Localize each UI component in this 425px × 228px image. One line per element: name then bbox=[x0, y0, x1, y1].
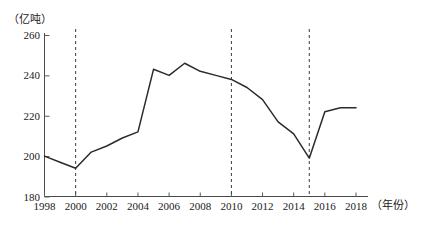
y-tick-label: 260 bbox=[14, 30, 40, 41]
y-tick-label: 240 bbox=[14, 70, 40, 81]
x-tick-label: 2016 bbox=[314, 201, 336, 212]
y-tick-label: 200 bbox=[14, 151, 40, 162]
y-tick-marks bbox=[45, 36, 50, 198]
x-tick-label: 2004 bbox=[127, 201, 149, 212]
reference-lines bbox=[76, 29, 310, 197]
x-tick-label: 2018 bbox=[345, 201, 367, 212]
x-tick-label: 2012 bbox=[252, 201, 274, 212]
x-tick-label: 2008 bbox=[189, 201, 211, 212]
line-chart: （亿吨） （年份） 180200220240260 19982000200220… bbox=[0, 0, 425, 228]
x-tick-label: 2002 bbox=[96, 201, 118, 212]
y-tick-label: 220 bbox=[14, 110, 40, 121]
plot-area bbox=[0, 0, 425, 228]
axes-group bbox=[45, 33, 369, 197]
x-tick-label: 2014 bbox=[283, 201, 305, 212]
x-tick-label: 2006 bbox=[158, 201, 180, 212]
x-tick-label: 2010 bbox=[220, 201, 242, 212]
x-tick-label: 1998 bbox=[34, 201, 56, 212]
x-tick-label: 2000 bbox=[65, 201, 87, 212]
